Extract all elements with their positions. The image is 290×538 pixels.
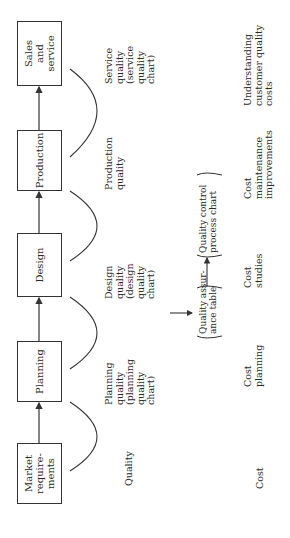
planning-quality-text: Planning quality (planning quality chart… <box>104 359 157 405</box>
quality-assurance-table: Quality assur- ance table <box>198 270 218 334</box>
cost-studies-text: Cost studies <box>243 254 264 288</box>
step-sales-and-service: Sales and service <box>17 21 62 86</box>
cost-planning-text: Cost planning <box>243 345 264 387</box>
customer-quality-costs-text: Understanding customer quality costs <box>243 25 275 106</box>
step-market-requirements: Market require- ments <box>17 443 62 504</box>
cost-maintenance-text: Cost maintenance improvements <box>243 130 275 199</box>
design-quality-text: Design quality (design quality chart) <box>104 263 157 299</box>
step-label: Sales and service <box>23 35 56 71</box>
step-label: Planning <box>34 349 45 394</box>
step-label: Market require- ments <box>23 453 56 494</box>
quality-control-process-chart: Quality control process chart <box>198 185 218 253</box>
quality-row-label: Quality <box>124 451 135 486</box>
step-production: Production <box>17 130 62 191</box>
step-planning: Planning <box>17 341 62 402</box>
production-quality-text: Production quality <box>104 137 125 190</box>
cost-row-label: Cost <box>255 467 266 489</box>
step-design: Design <box>17 233 62 297</box>
service-quality-text: Service quality (service quality chart) <box>104 46 157 84</box>
quality-process-diagram: Market require- ments Planning Design Pr… <box>0 0 290 538</box>
step-label: Production <box>34 133 45 189</box>
step-label: Design <box>34 247 45 282</box>
